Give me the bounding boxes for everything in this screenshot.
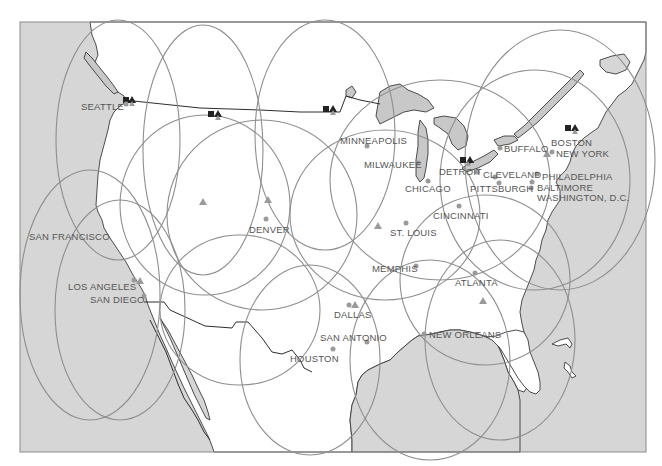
city-label-milwaukee: MILWAUKEE — [364, 159, 422, 170]
city-dot-atlanta — [473, 271, 478, 276]
city-label-detroit: DETROIT — [439, 166, 482, 177]
city-label-san-diego: SAN DIEGO — [90, 294, 145, 305]
city-label-cincinnati: CINCINNATI — [433, 210, 489, 221]
city-label-seattle: SEATTLE — [81, 101, 124, 112]
city-label-denver: DENVER — [249, 224, 290, 235]
city-label-new-orleans: NEW ORLEANS — [429, 329, 501, 340]
city-label-houston: HOUSTON — [290, 353, 339, 364]
city-label-philadelphia: PHILADELPHIA — [542, 171, 613, 182]
city-dot-cincinnati — [457, 204, 462, 209]
city-dot-buffalo — [498, 146, 503, 151]
city-label-pittsburgh: PITTSBURGH — [470, 183, 533, 194]
us-coverage-map: SEATTLE MINNEAPOLIS MILWAUKEE CHICAGO DE… — [0, 0, 662, 466]
city-label-minneapolis: MINNEAPOLIS — [340, 135, 407, 146]
city-dot-houston — [331, 347, 336, 352]
city-label-cleveland: CLEVELAND — [483, 169, 541, 180]
city-label-washington: WASHINGTON, D.C. — [537, 192, 629, 203]
city-label-los-angeles: LOS ANGELES — [68, 281, 136, 292]
city-dot-seattle — [124, 102, 129, 107]
city-dot-st-louis — [404, 221, 409, 226]
city-label-boston: BOSTON — [551, 137, 592, 148]
city-dot-dallas — [347, 303, 352, 308]
city-label-new-york: NEW YORK — [556, 148, 610, 159]
city-label-memphis: MEMPHIS — [372, 263, 418, 274]
city-dot-new-orleans — [422, 332, 427, 337]
city-label-chicago: CHICAGO — [405, 183, 451, 194]
city-label-san-antonio: SAN ANTONIO — [320, 332, 387, 343]
city-label-buffalo: BUFFALO — [504, 143, 549, 154]
city-label-san-francisco: SAN FRANCISCO — [29, 231, 110, 242]
city-label-dallas: DALLAS — [334, 309, 372, 320]
city-label-atlanta: ATLANTA — [455, 277, 498, 288]
city-dot-denver — [264, 217, 269, 222]
city-dot-new-york — [550, 150, 555, 155]
city-label-st-louis: ST. LOUIS — [390, 227, 437, 238]
